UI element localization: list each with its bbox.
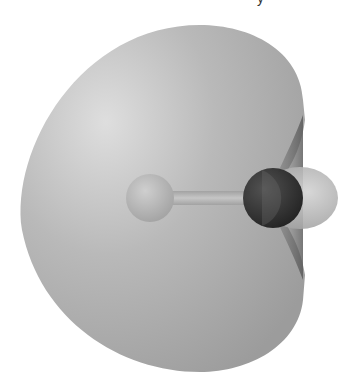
bond: [170, 191, 250, 205]
molecular-orbital-diagram: [0, 0, 364, 389]
left-atom: [126, 174, 174, 222]
